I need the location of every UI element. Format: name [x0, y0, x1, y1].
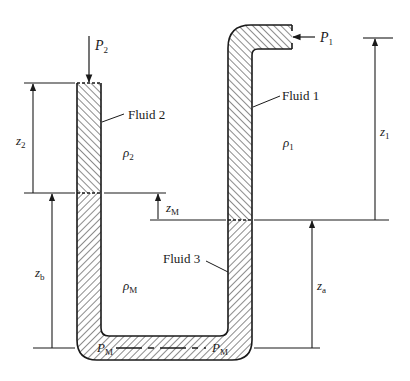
manometer-diagram: Fluid 2 Fluid 1 Fluid 3 P2 P1 PM PM ρ2 ρ…: [0, 0, 410, 381]
zm-label: zM: [165, 200, 179, 217]
p1-label: P1: [319, 30, 333, 47]
fluid3-leader: [206, 261, 228, 272]
z1-label: z1: [379, 124, 390, 141]
fluid3-label: Fluid 3: [163, 251, 200, 266]
fluid2-label: Fluid 2: [128, 107, 165, 122]
rhoM-label: ρM: [122, 278, 137, 295]
za-label: za: [316, 278, 326, 295]
z2-label: z2: [15, 133, 26, 150]
fluid1-body: [228, 25, 292, 220]
fluid2-leader: [102, 114, 124, 122]
fluid2-column: [77, 83, 101, 193]
p2-label: P2: [94, 38, 108, 55]
fluid1-leader: [253, 96, 280, 107]
rho2-label: ρ2: [122, 145, 134, 162]
zb-label: zb: [34, 265, 45, 282]
fluid1-label: Fluid 1: [282, 88, 319, 103]
rho1-label: ρ1: [282, 135, 294, 152]
